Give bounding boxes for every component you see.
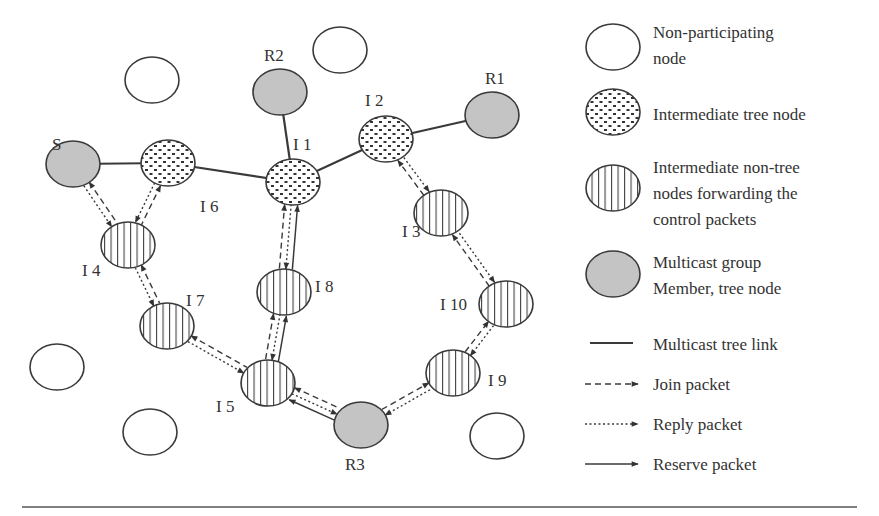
legend-label-member: Multicast group — [653, 253, 761, 272]
node-i9-non-tree — [426, 350, 480, 396]
node-i6-tree — [141, 140, 195, 186]
join-packet-i8-i1 — [279, 204, 284, 268]
legend-item-tree-link: Multicast tree link — [590, 335, 778, 354]
reply-packet-i8-i1 — [286, 205, 291, 269]
legend: Non-participatingnodeIntermediate tree n… — [585, 23, 806, 474]
node-label-i5: I 5 — [216, 397, 234, 416]
legend-label-non-participating: node — [653, 49, 686, 68]
node-i4-non-tree — [101, 222, 155, 268]
legend-label-member: Member, tree node — [653, 279, 781, 298]
legend-symbol-non-tree — [586, 165, 640, 211]
legend-symbol-member — [586, 251, 640, 297]
node-r3-member — [334, 402, 388, 448]
multicast-diagram: SR1R2R3I 1I 2I 6I 3I 4I 5I 7I 8I 9I 10 N… — [0, 0, 879, 516]
node-label-i10: I 10 — [440, 295, 467, 314]
reply-packet-i10-i3 — [458, 231, 495, 283]
node-label-i2: I 2 — [365, 91, 383, 110]
reply-packet-s-i4 — [84, 186, 112, 227]
node-label-i9: I 9 — [488, 371, 506, 390]
node-i10-non-tree — [479, 281, 533, 327]
legend-label-non-tree: control packets — [653, 210, 756, 229]
node-label-i8: I 8 — [315, 277, 333, 296]
legend-item-join: Join packet — [585, 375, 730, 394]
legend-label-join: Join packet — [653, 375, 730, 394]
node-np1-non-participating — [125, 57, 179, 103]
legend-item-member: Multicast groupMember, tree node — [586, 251, 781, 298]
legend-label-tree: Intermediate tree node — [653, 105, 806, 124]
node-label-i7: I 7 — [186, 291, 205, 310]
legend-symbol-tree — [586, 89, 640, 135]
legend-label-non-participating: Non-participating — [653, 23, 774, 42]
legend-label-non-tree: nodes forwarding the — [653, 184, 797, 203]
node-label-r2: R2 — [264, 46, 284, 65]
node-label-r1: R1 — [485, 69, 505, 88]
node-label-i4: I 4 — [82, 261, 101, 280]
node-label-i6: I 6 — [200, 197, 218, 216]
join-packet-s-i4 — [89, 182, 117, 223]
node-np3-non-participating — [30, 344, 84, 390]
node-np2-non-participating — [313, 27, 367, 73]
node-i5-non-tree — [241, 360, 295, 406]
reply-packet-r3-i9 — [385, 389, 432, 416]
legend-label-non-tree: Intermediate non-tree — [653, 158, 800, 177]
node-np5-non-participating — [470, 413, 524, 459]
node-r2-member — [253, 69, 307, 115]
node-i2-tree — [359, 116, 413, 162]
node-r1-member — [465, 92, 519, 138]
reserve-packet-i5-i8 — [278, 316, 286, 362]
node-np4-non-participating — [123, 409, 177, 455]
node-label-i3: I 3 — [402, 222, 420, 241]
reply-packet-i5-i8 — [272, 315, 280, 361]
legend-item-tree: Intermediate tree node — [586, 89, 806, 135]
node-i1-tree — [266, 159, 320, 205]
legend-item-non-tree: Intermediate non-treenodes forwarding th… — [586, 158, 800, 229]
join-packet-i3-i2 — [398, 160, 424, 195]
reply-packet-i3-i2 — [403, 156, 429, 191]
node-label-r3: R3 — [345, 455, 365, 474]
legend-item-non-participating: Non-participatingnode — [586, 23, 774, 70]
legend-item-reply: Reply packet — [585, 415, 742, 434]
reply-packet-i7-i5 — [188, 342, 244, 374]
legend-item-reserve: Reserve packet — [585, 455, 757, 474]
join-packet-i5-i8 — [266, 314, 274, 360]
reserve-packet-i8-i1 — [292, 205, 297, 269]
node-i3-non-tree — [414, 190, 468, 236]
node-label-i1: I 1 — [293, 135, 311, 154]
node-i8-non-tree — [257, 269, 311, 315]
legend-label-tree-link: Multicast tree link — [653, 335, 778, 354]
node-label-s: S — [52, 135, 61, 154]
join-packet-i7-i5 — [191, 336, 247, 368]
legend-symbol-non-participating — [586, 24, 640, 70]
join-packet-i10-i3 — [452, 235, 489, 287]
legend-label-reserve: Reserve packet — [653, 455, 757, 474]
reserve-packet-i5-r3 — [289, 400, 334, 420]
join-packet-r3-i9 — [382, 383, 429, 410]
legend-label-reply: Reply packet — [653, 415, 742, 434]
